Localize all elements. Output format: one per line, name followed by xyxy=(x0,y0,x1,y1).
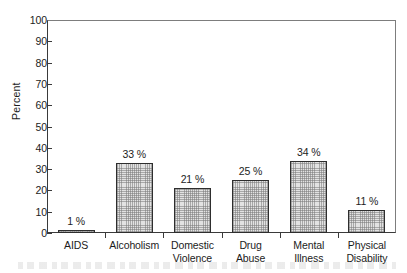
y-tick-label: 10 xyxy=(5,207,47,217)
x-category-label-line1: AIDS xyxy=(64,239,88,251)
x-category-label-line1: Physical xyxy=(348,239,386,251)
y-tick-label: 30 xyxy=(5,164,47,174)
bar-value-label: 33 % xyxy=(104,149,164,160)
x-category-label-line1: Mental xyxy=(293,239,324,251)
bar-value-label: 21 % xyxy=(162,174,222,185)
y-tick-mark xyxy=(47,84,52,85)
y-tick-mark xyxy=(47,212,52,213)
scan-artifact xyxy=(18,262,396,269)
y-tick-mark xyxy=(47,63,52,64)
x-tick-mark xyxy=(222,233,223,238)
x-tick-mark xyxy=(280,233,281,238)
y-tick-mark xyxy=(47,105,52,106)
y-tick-mark xyxy=(47,127,52,128)
y-tick-label: 70 xyxy=(5,79,47,89)
bar-chart-figure: Percent 0102030405060708090100 1 %AIDS33… xyxy=(0,0,407,273)
y-tick-label: 90 xyxy=(5,36,47,46)
y-tick-label: 50 xyxy=(5,122,47,132)
bar xyxy=(116,163,153,233)
x-tick-mark xyxy=(163,233,164,238)
y-tick-mark xyxy=(47,41,52,42)
bar xyxy=(174,188,211,233)
bar xyxy=(348,210,385,233)
y-tick-mark xyxy=(47,148,52,149)
y-tick-label: 40 xyxy=(5,143,47,153)
y-tick-mark xyxy=(47,233,52,234)
x-tick-mark xyxy=(338,233,339,238)
y-tick-mark xyxy=(47,169,52,170)
y-tick-mark xyxy=(47,190,52,191)
bar-value-label: 1 % xyxy=(46,216,106,227)
y-axis: 0102030405060708090100 xyxy=(0,0,47,273)
x-tick-mark xyxy=(105,233,106,238)
bar xyxy=(290,161,327,233)
y-tick-label: 80 xyxy=(5,58,47,68)
y-tick-label: 60 xyxy=(5,100,47,110)
bar-value-label: 25 % xyxy=(221,166,281,177)
x-category-label-line1: Alcoholism xyxy=(109,239,159,251)
y-tick-label: 20 xyxy=(5,185,47,195)
bar xyxy=(58,230,95,233)
bar xyxy=(232,180,269,233)
bar-value-label: 34 % xyxy=(279,147,339,158)
y-tick-label: 100 xyxy=(5,15,47,25)
y-tick-label: 0 xyxy=(5,228,47,238)
bar-value-label: 11 % xyxy=(337,196,397,207)
x-category-label-line1: Drug xyxy=(239,239,261,251)
x-category-label: PhysicalDisability xyxy=(333,239,401,264)
x-category-label-line1: Domestic xyxy=(171,239,214,251)
